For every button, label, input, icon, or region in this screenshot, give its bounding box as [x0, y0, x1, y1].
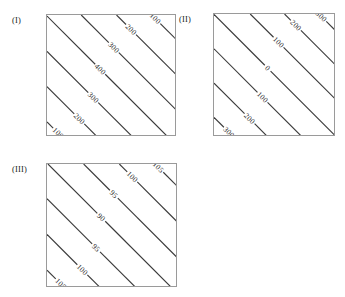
contour-line: [214, 83, 245, 114]
contour-line: [105, 74, 168, 136]
contour-line: [47, 270, 56, 279]
contour-line: [47, 16, 95, 64]
contour-line: [105, 221, 172, 287]
contour-line: [100, 252, 136, 287]
contour-line: [136, 35, 176, 76]
contour-canvas-3: 105100959095100105: [47, 164, 177, 287]
panel-label-2: (II): [179, 14, 191, 24]
plot-frame-3: 105100959095100105: [46, 163, 177, 287]
contour-line: [163, 172, 177, 187]
contour-line: [117, 15, 126, 24]
contour-line: [271, 71, 335, 136]
contour-canvas-1: 100200300400300200100: [47, 15, 176, 136]
contour-line: [47, 234, 77, 264]
contour-line: [48, 164, 97, 213]
contour-line: [81, 15, 109, 43]
contour-line: [137, 182, 177, 223]
contour-line: [326, 21, 335, 31]
contour-line: [47, 51, 88, 92]
contour-line: [255, 124, 268, 136]
contour-line: [301, 30, 335, 65]
contour-line: [214, 15, 265, 66]
contour-line: [87, 275, 100, 287]
contour-line: [47, 87, 74, 114]
contour-canvas-2: 3002001000100200300: [214, 14, 335, 136]
panel-label-1: (I): [12, 15, 21, 25]
plot-frame-2: 3002001000100200300: [213, 13, 335, 136]
panel-label-3: (III): [12, 164, 27, 174]
contour-line: [214, 49, 257, 92]
contour-line: [98, 103, 132, 136]
contour-line: [214, 117, 224, 127]
contour-line: [250, 14, 273, 37]
contour-line: [119, 164, 127, 172]
contour-line: [47, 199, 92, 244]
contour-line: [84, 124, 97, 136]
contour-line: [268, 102, 303, 136]
contour-line: [285, 14, 291, 20]
contour-line: [160, 24, 176, 41]
contour-line: [84, 164, 110, 190]
contour-line: [118, 198, 177, 258]
plot-frame-1: 100200300400300200100: [46, 14, 176, 136]
contour-line: [47, 122, 53, 128]
contour-line: [119, 53, 176, 111]
